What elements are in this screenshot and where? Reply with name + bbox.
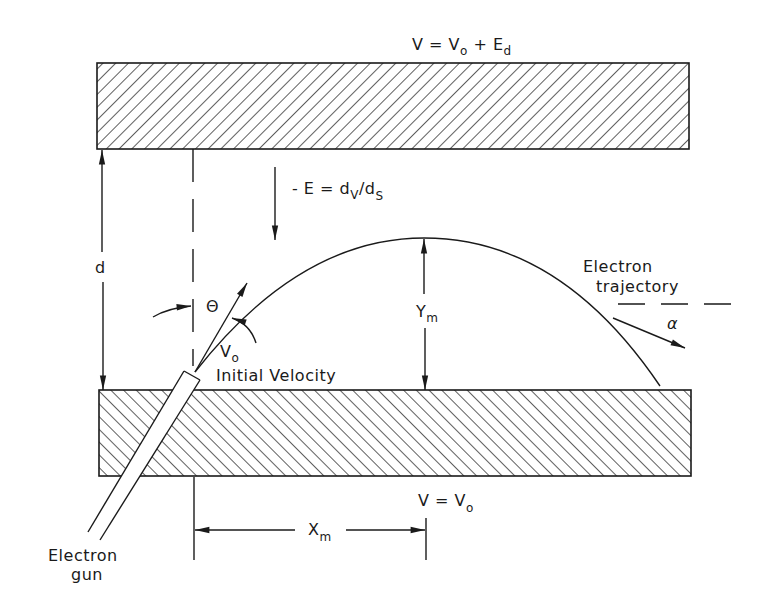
- bottom-plate-potential-label: V = Vo: [418, 491, 474, 515]
- max-range-label: Xm: [308, 520, 332, 544]
- trajectory-label: Electron: [583, 257, 653, 276]
- max-height-label: Ym: [415, 302, 438, 325]
- max-range-dimension: [194, 477, 426, 560]
- initial-velocity-caption: Initial Velocity: [216, 366, 336, 385]
- gap-label: d: [95, 258, 106, 277]
- trajectory-label-line2: trajectory: [596, 277, 679, 296]
- velocity-angle-arc: [232, 318, 256, 343]
- electron-trajectory-diagram: V = Vo + Ed V = Vo Electron gun d - E = …: [0, 0, 776, 616]
- velocity-symbol: Vo: [220, 342, 239, 365]
- bottom-plate: [99, 390, 691, 476]
- electron-gun-label-line2: gun: [71, 565, 103, 584]
- top-plate: [97, 63, 689, 149]
- top-plate-potential-label: V = Vo + Ed: [412, 35, 512, 58]
- field-equation-label: - E = dV/dS: [292, 179, 384, 203]
- alpha-label: α: [667, 314, 678, 333]
- electron-gun-label: Electron: [48, 546, 118, 565]
- theta-arc-arrow: [153, 306, 191, 317]
- theta-label: Θ: [206, 297, 219, 316]
